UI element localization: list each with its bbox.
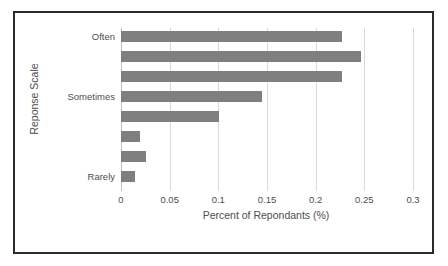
x-tick-label-0.1: 0.1 <box>198 194 238 205</box>
y-axis-title: Reponse Scale <box>28 34 40 164</box>
x-tick-label-0.2: 0.2 <box>296 194 336 205</box>
plot-area: Often Sometimes Rarely 0 0.05 0.1 0.15 0… <box>15 13 432 252</box>
bar-8[interactable] <box>121 171 135 182</box>
bar-2[interactable] <box>121 51 361 62</box>
bar-5[interactable] <box>121 111 219 122</box>
x-tick-label-0.05: 0.05 <box>150 194 190 205</box>
bar-7[interactable] <box>121 151 146 162</box>
bar-6[interactable] <box>121 131 140 142</box>
bar-3[interactable] <box>121 71 342 82</box>
bar-4[interactable] <box>121 91 262 102</box>
x-tick-label-0.25: 0.25 <box>344 194 384 205</box>
gridline-0.3 <box>413 28 414 191</box>
x-tick-label-0.3: 0.3 <box>393 194 433 205</box>
gridline-0.25 <box>364 28 365 191</box>
x-tick-label-0.15: 0.15 <box>247 194 287 205</box>
x-tick-label-0: 0 <box>101 194 141 205</box>
y-tick-label-rarely: Rarely <box>19 171 115 182</box>
x-axis-title: Percent of Repondants (%) <box>119 209 413 221</box>
chart-frame: Often Sometimes Rarely 0 0.05 0.1 0.15 0… <box>13 11 434 254</box>
bar-1[interactable] <box>121 31 342 42</box>
